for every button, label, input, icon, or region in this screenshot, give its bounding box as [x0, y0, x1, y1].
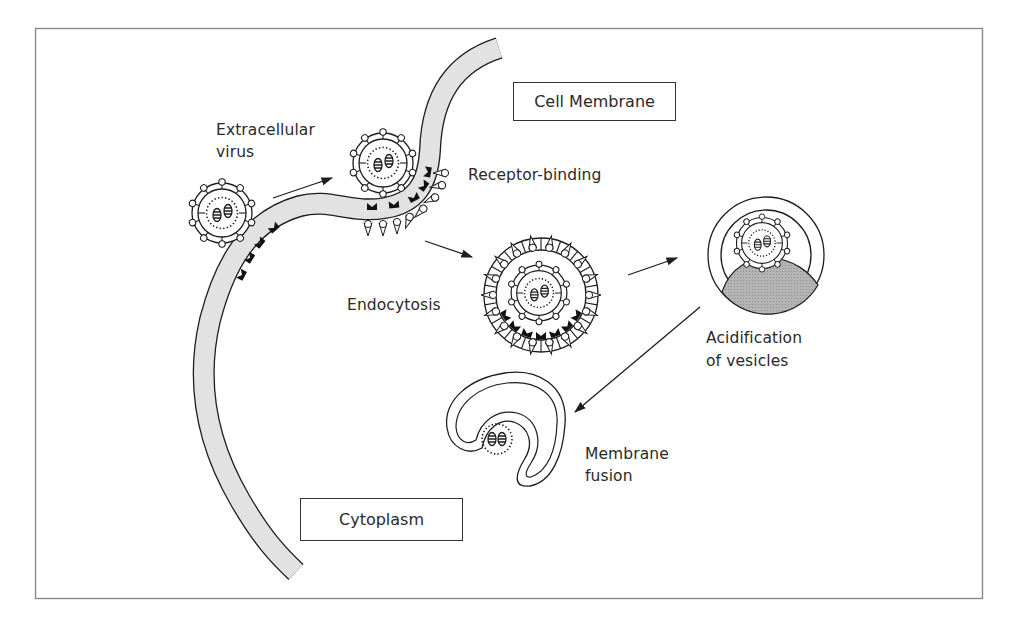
virus-entry-diagram: [0, 0, 1010, 630]
extracellular-virus-label-line1: Extracellular: [216, 120, 315, 140]
receptor-binding-label: Receptor-binding: [468, 165, 601, 185]
arrow-binding-to-endocytosis: [425, 241, 472, 257]
acidification-label-line2: of vesicles: [706, 351, 789, 371]
endocytic-vesicle: [481, 235, 601, 355]
cell-membrane-label: Cell Membrane: [513, 82, 676, 121]
acidification-label-line1: Acidification: [706, 328, 802, 348]
extracellular-virus-label-line2: virus: [216, 142, 254, 162]
fusion-vesicle: [447, 372, 566, 486]
membrane-fusion-label-line2: fusion: [585, 466, 633, 486]
cytoplasm-label: Cytoplasm: [300, 498, 463, 541]
diagram-canvas: Cell Membrane Cytoplasm Extracellular vi…: [0, 0, 1010, 630]
arrow-endocytosis-to-acidification: [628, 258, 677, 275]
endocytosis-label: Endocytosis: [347, 295, 441, 315]
arrow-acidification-to-fusion: [575, 307, 700, 412]
acidified-vesicle: [708, 197, 824, 314]
membrane-fusion-label-line1: Membrane: [585, 444, 669, 464]
